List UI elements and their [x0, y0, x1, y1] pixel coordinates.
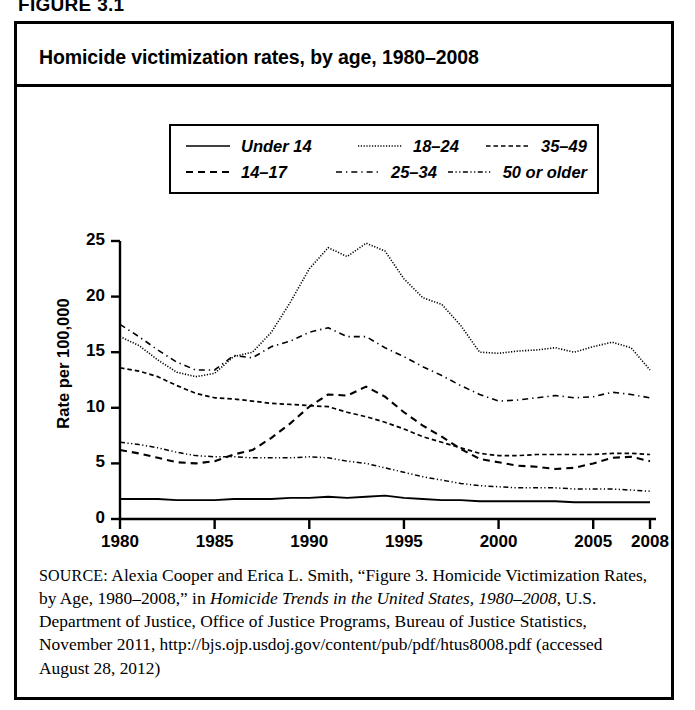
y-tick-label: 25	[65, 230, 105, 250]
line-solid-icon	[185, 140, 231, 152]
legend-label: 14–17	[241, 163, 287, 182]
chart-title: Homicide victimization rates, by age, 19…	[39, 46, 479, 69]
legend-item-25-34[interactable]: 25–34	[335, 163, 447, 182]
series-line	[120, 496, 650, 503]
legend-item-under-14[interactable]: Under 14	[185, 137, 357, 156]
y-tick-label: 20	[65, 286, 105, 306]
x-tick-label: 1980	[90, 532, 150, 552]
series-line	[120, 368, 650, 456]
line-dashed-long-icon	[185, 166, 231, 178]
legend-label: 50 or older	[503, 163, 587, 182]
source-prefix: SOURCE:	[39, 567, 108, 584]
series-layer	[120, 243, 650, 502]
line-dashed-short-icon	[485, 140, 531, 152]
x-tick-label: 2005	[563, 532, 623, 552]
figure-box: Homicide victimization rates, by age, 19…	[14, 21, 674, 700]
y-tick-label: 10	[65, 397, 105, 417]
line-dotted-icon	[357, 140, 403, 152]
y-tick-label: 5	[65, 452, 105, 472]
y-tick-label: 15	[65, 341, 105, 361]
line-dash-dot-icon	[335, 166, 381, 178]
chart-legend: Under 14 18–24 35–49 14–17	[169, 124, 599, 194]
legend-item-35-49[interactable]: 35–49	[485, 137, 587, 156]
legend-label: 25–34	[391, 163, 437, 182]
legend-label: 35–49	[541, 137, 587, 156]
x-tick-label: 1985	[185, 532, 245, 552]
legend-label: 18–24	[413, 137, 459, 156]
legend-item-18-24[interactable]: 18–24	[357, 137, 485, 156]
source-italic-title: Homicide Trends in the United States, 19…	[210, 588, 557, 608]
series-line	[120, 324, 650, 401]
line-dash-dot-dot-icon	[447, 166, 493, 178]
legend-row: 14–17 25–34 50 or older	[185, 159, 587, 185]
x-tick-label: 1990	[279, 532, 339, 552]
legend-item-50-or-older[interactable]: 50 or older	[447, 163, 587, 182]
legend-label: Under 14	[241, 137, 312, 156]
series-line	[120, 442, 650, 491]
source-note: SOURCE: Alexia Cooper and Erica L. Smith…	[39, 564, 651, 680]
figure-label: FIGURE 3.1	[18, 0, 124, 16]
series-line	[120, 387, 650, 469]
legend-item-14-17[interactable]: 14–17	[185, 163, 335, 182]
x-tick-label: 1995	[374, 532, 434, 552]
title-divider	[17, 84, 671, 87]
y-tick-label: 0	[65, 508, 105, 528]
legend-row: Under 14 18–24 35–49	[185, 133, 587, 159]
series-line	[120, 243, 650, 376]
axis-layer	[111, 241, 656, 529]
x-tick-label: 2008	[620, 532, 680, 552]
x-tick-label: 2000	[469, 532, 529, 552]
